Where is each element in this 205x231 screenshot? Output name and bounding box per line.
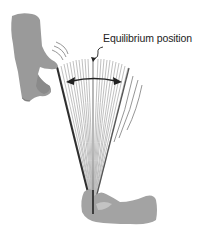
equilibrium-position-label: Equilibrium position — [103, 32, 192, 44]
motion-lines-left — [52, 42, 68, 60]
label-leader-line — [94, 47, 103, 59]
top-hand-icon — [11, 13, 58, 101]
leader-arrowhead — [91, 57, 96, 62]
diagram-canvas: Equilibrium position — [0, 0, 205, 231]
oscillation-arrow — [66, 77, 122, 85]
